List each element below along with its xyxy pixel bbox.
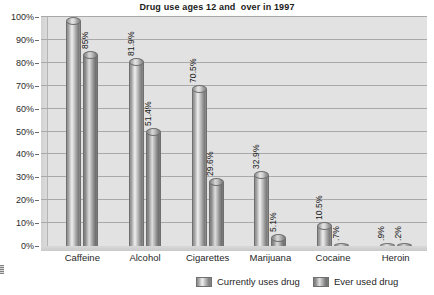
bar: 85% (83, 51, 98, 246)
bar-body (83, 55, 98, 246)
bar-value-label: 81.9% (126, 32, 136, 57)
x-axis-category-label: Caffeine (65, 252, 100, 263)
bar-body (66, 21, 81, 246)
x-axis-category-label: Heroin (382, 252, 410, 263)
y-axis-tick-mark (35, 223, 39, 224)
y-axis-tick-mark (35, 63, 39, 64)
bar-group: 10.5%.7% (317, 11, 349, 246)
bar-value-label: 85% (80, 32, 90, 49)
y-axis-tick-mark (35, 200, 39, 201)
bar: 51.4% (146, 128, 161, 246)
legend-label: Currently uses drug (217, 276, 300, 287)
bar-body (146, 132, 161, 246)
bar-value-label: 51.4% (143, 102, 153, 127)
bar: 5.1% (271, 234, 286, 246)
y-axis-tick-label: 10% (16, 218, 34, 228)
y-axis-tick-mark (35, 40, 39, 41)
bar-group: 70.5%29.6% (192, 11, 224, 246)
y-axis-tick-label: 80% (16, 58, 34, 68)
x-axis-category-label: Alcohol (129, 252, 160, 263)
y-axis-tick-label: 30% (16, 172, 34, 182)
bar-value-label: 10.5% (314, 195, 324, 220)
bar-body (129, 62, 144, 246)
x-axis-category-label: Cocaine (316, 252, 351, 263)
bar-value-label: 5.1% (268, 213, 278, 233)
bar-value-label: 29.6% (205, 152, 215, 177)
bar-value-label: 32.9% (251, 144, 261, 169)
bar: 81.9% (129, 58, 144, 246)
legend-item-currently-uses-drug: Currently uses drug (196, 276, 300, 287)
bar-value-label: .9% (376, 226, 386, 241)
y-axis-tick-label: 0% (21, 241, 34, 251)
legend-swatch-icon (196, 277, 212, 287)
bar: 10.5% (317, 222, 332, 246)
y-axis-tick-mark (35, 109, 39, 110)
scan-artifact (0, 265, 4, 274)
bar-value-label: 70.5% (188, 58, 198, 83)
y-axis-tick-mark (35, 17, 39, 18)
y-axis-tick-label: 90% (16, 35, 34, 45)
y-axis-tick-label: 40% (16, 149, 34, 159)
y-axis-tick-label: 60% (16, 104, 34, 114)
y-axis-tick-label: 20% (16, 195, 34, 205)
y-axis-tick-mark (35, 154, 39, 155)
bar-cap (192, 85, 207, 93)
bar-cap (254, 171, 269, 179)
bar (66, 17, 81, 246)
bar-group: .9%.2% (380, 11, 412, 246)
bar-body (254, 175, 269, 246)
y-axis-tick-label: 100% (11, 12, 34, 22)
chart-legend: Currently uses drug Ever used drug (196, 276, 398, 287)
legend-label: Ever used drug (334, 276, 398, 287)
y-axis: 100%90%80%70%60%50%40%30%20%10%0% (0, 16, 39, 252)
chart-plot-area: 85%81.9%51.4%70.5%29.6%32.9%5.1%10.5%.7%… (41, 16, 427, 251)
bar-group: 85% (66, 11, 98, 246)
y-axis-tick-mark (35, 86, 39, 87)
x-axis-category-label: Cigarettes (186, 252, 229, 263)
plot-floor (41, 246, 427, 251)
bar-cap (317, 222, 332, 230)
legend-item-ever-used-drug: Ever used drug (313, 276, 398, 287)
y-axis-tick-label: 50% (16, 127, 34, 137)
bar-group: 81.9%51.4% (129, 11, 161, 246)
legend-swatch-icon (313, 277, 329, 287)
y-axis-tick-mark (35, 177, 39, 178)
y-axis-tick-label: 70% (16, 81, 34, 91)
bar-value-label: .2% (393, 226, 403, 241)
bar-series-container: 85%81.9%51.4%70.5%29.6%32.9%5.1%10.5%.7%… (41, 16, 427, 251)
bar-body (209, 182, 224, 246)
x-axis: CaffeineAlcoholCigarettesMarijuanaCocain… (41, 252, 427, 268)
bar: 29.6% (209, 178, 224, 246)
x-axis-category-label: Marijuana (249, 252, 291, 263)
bar: 32.9% (254, 171, 269, 246)
bar-cap (209, 178, 224, 186)
bar-value-label: .7% (331, 226, 341, 241)
bar-group: 32.9%5.1% (254, 11, 286, 246)
y-axis-tick-mark (35, 132, 39, 133)
y-axis-tick-mark (35, 246, 39, 247)
